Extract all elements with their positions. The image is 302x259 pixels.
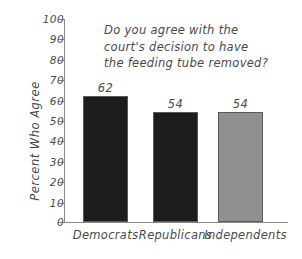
chart-annotation: Do you agree with the court's decision t… [104,22,294,72]
bar-value-republicans: 54 [153,97,198,111]
y-tick-label-100: 100 [40,14,64,24]
y-tick-label-60-wrap: 60 [34,96,64,106]
y-tick-label-90-wrap: 90 [34,34,64,44]
y-tick-label-20: 20 [40,177,64,187]
y-tick-label-0: 0 [40,217,64,227]
annotation-line-2: court's decision to have [104,39,294,56]
x-label-democrats: Democrats [66,228,145,242]
y-tick-label-0-wrap: 0 [34,217,64,227]
bar-independents [218,112,263,222]
y-tick-label-70: 70 [40,75,64,85]
y-tick-label-50: 50 [40,116,64,126]
y-tick-label-10-wrap: 10 [34,198,64,208]
annotation-line-1: Do you agree with the [104,22,294,39]
x-axis-line [64,222,288,223]
y-tick-label-100-wrap: 100 [34,14,64,24]
y-tick-label-70-wrap: 70 [34,75,64,85]
y-tick-label-50-wrap: 50 [34,116,64,126]
y-tick-label-90: 90 [40,34,64,44]
y-tick-label-60: 60 [40,96,64,106]
y-tick-label-20-wrap: 20 [34,177,64,187]
y-tick-label-80: 80 [40,55,64,65]
annotation-line-3: the feeding tube removed? [104,55,294,72]
y-tick-label-30-wrap: 30 [34,157,64,167]
bar-value-democrats: 62 [83,81,128,95]
bar-democrats [83,96,128,222]
y-tick-label-10: 10 [40,198,64,208]
y-tick-label-40-wrap: 40 [34,136,64,146]
y-tick-label-80-wrap: 80 [34,55,64,65]
bar-chart: Percent Who Agree 100 90 80 70 60 50 40 … [0,0,302,259]
y-tick-label-30: 30 [40,157,64,167]
bar-republicans [153,112,198,222]
x-label-independents: Independents [203,228,288,242]
bar-value-independents: 54 [218,97,263,111]
y-tick-label-40: 40 [40,136,64,146]
